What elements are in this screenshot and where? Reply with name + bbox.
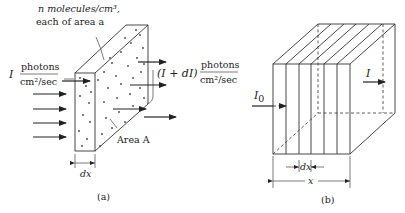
molecule-dot — [124, 121, 126, 123]
exit-unit-numerator: photons — [201, 59, 240, 70]
molecule-dot — [140, 71, 142, 73]
exit-unit-denominator: cm²/sec — [200, 74, 237, 85]
incident-unit-denominator: cm²/sec — [20, 76, 57, 87]
molecule-dot — [142, 47, 144, 49]
slices — [286, 24, 382, 154]
incident-unit-numerator: photons — [21, 61, 60, 72]
molecule-dot — [118, 111, 120, 113]
dx-label: dx — [80, 168, 92, 179]
length-label: x — [308, 175, 314, 186]
incident-intensity-symbol: I — [8, 68, 14, 81]
molecule-annotation-line1: n molecules/cm³, — [38, 3, 120, 14]
molecule-dot — [130, 42, 132, 44]
incident-intensity-label: I0 — [253, 89, 264, 104]
molecule-dot — [143, 97, 145, 99]
molecule-dot — [124, 37, 126, 39]
molecule-dot — [135, 29, 137, 31]
slice-top-edge — [299, 24, 344, 64]
molecule-dot — [132, 105, 134, 107]
absorption-diagram: n molecules/cm³, each of area a I photon… — [0, 0, 405, 213]
panel-a: n molecules/cm³, each of area a I photon… — [8, 3, 240, 202]
molecule-dot — [79, 77, 81, 79]
block-front-face — [273, 64, 350, 154]
slice-thickness-label: dx — [300, 161, 312, 172]
molecule-dot — [143, 63, 145, 65]
molecule-dot — [82, 114, 84, 116]
molecule-dot — [111, 62, 113, 64]
slice-top-edge — [337, 24, 382, 64]
molecule-dot — [81, 145, 83, 147]
molecule-dot — [132, 77, 134, 79]
molecule-dots — [78, 29, 145, 147]
molecule-dot — [127, 65, 129, 67]
slice-top-edge — [286, 24, 331, 64]
molecule-dot — [136, 57, 138, 59]
area-leader-line — [110, 119, 117, 128]
molecule-annotation-line2: each of area a — [36, 16, 105, 27]
caption-a: (a) — [97, 191, 110, 202]
molecule-dot — [99, 145, 101, 147]
molecule-dot — [89, 121, 91, 123]
molecule-dot — [120, 51, 122, 53]
molecule-dot — [90, 91, 92, 93]
molecule-dot — [86, 138, 88, 140]
slab-top-face — [75, 25, 148, 73]
molecule-dot — [139, 87, 141, 89]
molecule-dot — [120, 83, 122, 85]
molecule-dot — [97, 79, 99, 81]
caption-b: (b) — [321, 194, 335, 205]
molecule-dot — [116, 97, 118, 99]
molecule-dot — [139, 34, 141, 36]
exit-intensity-symbol: (I + dI) — [157, 67, 198, 80]
molecule-dot — [85, 85, 87, 87]
molecule-dot — [103, 71, 105, 73]
incident-arrows — [33, 81, 90, 137]
molecule-dot — [107, 87, 109, 89]
molecule-dot — [129, 93, 131, 95]
molecule-dot — [78, 130, 80, 132]
molecule-leader-line — [96, 37, 104, 60]
molecule-dot — [115, 75, 117, 77]
panel-b: I0 I dx x (b) — [252, 24, 395, 205]
slice-top-edge — [324, 24, 369, 64]
area-label: Area A — [116, 134, 150, 145]
slab-front-face — [75, 73, 95, 151]
slab — [75, 25, 148, 151]
molecule-dot — [88, 102, 90, 104]
molecule-dot — [105, 117, 107, 119]
molecule-dot — [103, 101, 105, 103]
molecule-dot — [79, 95, 81, 97]
molecule-dot — [109, 57, 111, 59]
molecule-dot — [101, 133, 103, 135]
exit-intensity-label: I — [365, 67, 371, 80]
molecule-dot — [111, 127, 113, 129]
